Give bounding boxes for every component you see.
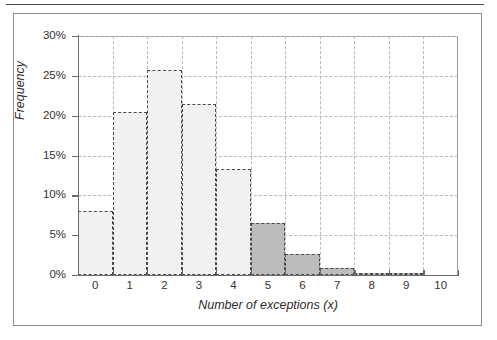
x-tick-mark	[389, 270, 390, 276]
y-tick-label: 10%	[4, 188, 66, 200]
histogram-bar	[216, 169, 251, 275]
gridline-horizontal	[78, 36, 458, 37]
x-tick-label: 0	[82, 279, 108, 291]
x-tick-mark	[78, 270, 79, 276]
y-tick-label: 5%	[4, 228, 66, 240]
x-tick-mark	[113, 270, 114, 276]
histogram-bar	[78, 211, 113, 275]
x-tick-mark	[251, 270, 252, 276]
x-tick-mark	[354, 270, 355, 276]
y-tick-label: 15%	[4, 149, 66, 161]
gridline-vertical	[389, 36, 390, 275]
y-tick-mark	[72, 36, 78, 37]
x-tick-label: 9	[393, 279, 419, 291]
x-tick-mark	[285, 270, 286, 276]
x-tick-mark	[147, 270, 148, 276]
x-tick-label: 4	[220, 279, 246, 291]
histogram-bar	[285, 254, 320, 276]
y-tick-mark	[72, 195, 78, 196]
x-tick-mark	[216, 270, 217, 276]
x-tick-mark	[458, 270, 459, 276]
x-tick-mark	[423, 270, 424, 276]
x-tick-label: 3	[186, 279, 212, 291]
y-tick-mark	[72, 116, 78, 117]
gridline-horizontal	[78, 76, 458, 77]
x-tick-label: 6	[290, 279, 316, 291]
y-tick-mark	[72, 156, 78, 157]
histogram-bar	[182, 104, 217, 275]
y-axis-title: Frequency	[13, 61, 27, 120]
histogram-bar	[147, 70, 182, 275]
x-tick-label: 10	[428, 279, 454, 291]
x-axis-line	[77, 275, 459, 276]
x-tick-mark	[182, 270, 183, 276]
gridline-vertical	[320, 36, 321, 275]
y-tick-mark	[72, 76, 78, 77]
x-tick-label: 1	[117, 279, 143, 291]
y-tick-mark	[72, 235, 78, 236]
x-tick-mark	[320, 270, 321, 276]
x-tick-label: 2	[151, 279, 177, 291]
y-tick-label: 30%	[4, 29, 66, 41]
histogram-bar	[320, 268, 355, 275]
histogram-bar	[113, 112, 148, 275]
figure-page: 0%5%10%15%20%25%30% 012345678910 Number …	[0, 0, 497, 340]
x-tick-label: 7	[324, 279, 350, 291]
gridline-vertical	[354, 36, 355, 275]
x-tick-label: 5	[255, 279, 281, 291]
x-axis-title: Number of exceptions (x)	[78, 298, 458, 312]
gridline-vertical	[423, 36, 424, 275]
gridline-vertical	[285, 36, 286, 275]
x-tick-label: 8	[359, 279, 385, 291]
y-tick-label: 0%	[4, 268, 66, 280]
histogram-bar	[251, 223, 286, 275]
plot-area	[78, 36, 458, 275]
histogram-chart: 0%5%10%15%20%25%30% 012345678910 Number …	[0, 0, 497, 340]
y-axis-line	[78, 35, 79, 276]
